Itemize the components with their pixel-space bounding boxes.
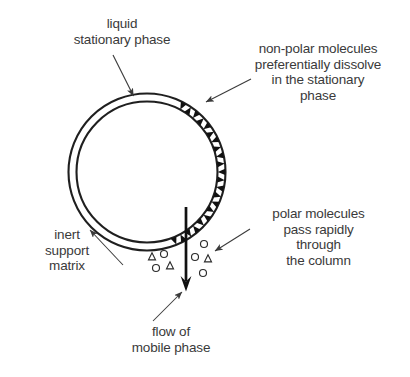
polar-cluster-right-cluster [192,241,212,277]
polar-molecule-triangle [149,253,156,260]
mobile-phase-flow-arrow [181,207,192,292]
polar-molecule-triangle [167,262,174,269]
polar-molecule-circle [201,241,208,248]
polar-cluster-left-cluster [149,251,174,272]
flow-leader [153,292,182,321]
non-polar-molecule [218,169,225,175]
label-liquid-stationary-phase: liquid stationary phase [42,16,202,47]
polar-molecule-circle [192,254,199,261]
polar-molecule-particles [149,241,212,277]
leader-lines [90,55,251,321]
polar-molecule-circle [200,270,207,277]
label-non-polar-molecules: non-polar molecules preferentially disso… [228,41,408,103]
chromatography-diagram: liquid stationary phase non-polar molecu… [0,0,410,377]
polar-molecule-circle [161,251,168,258]
label-polar-molecules: polar molecules pass rapidly through the… [236,206,401,268]
liquid-stationary-phase-leader [113,55,134,96]
polar-molecule-triangle [205,255,212,262]
label-flow-of-mobile-phase: flow of mobile phase [96,324,246,355]
label-inert-support-matrix: inert support matrix [12,227,122,274]
polar-molecule-circle [153,265,160,272]
